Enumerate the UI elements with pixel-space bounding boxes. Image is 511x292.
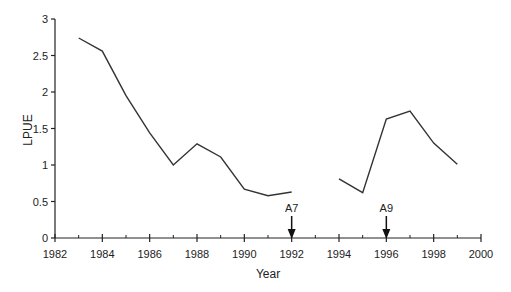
x-tick-label: 1982 <box>43 248 67 260</box>
x-tick-label: 1988 <box>185 248 209 260</box>
y-tick-label: 3 <box>42 13 48 25</box>
x-axis-title: Year <box>256 267 280 281</box>
x-tick-label: 1992 <box>279 248 303 260</box>
y-tick-label: 2.5 <box>33 50 48 62</box>
annotation-label: A9 <box>380 202 393 214</box>
x-tick-label: 1994 <box>327 248 351 260</box>
y-tick-label: 1 <box>42 159 48 171</box>
x-tick-label: 1986 <box>137 248 161 260</box>
series-line <box>79 38 292 196</box>
x-tick-label: 2000 <box>469 248 493 260</box>
y-tick-label: 0.5 <box>33 196 48 208</box>
lpue-line-chart: 00.511.522.53 19821984198619881990199219… <box>0 0 511 292</box>
data-series <box>79 38 458 196</box>
y-axis: 00.511.522.53 <box>33 13 55 244</box>
y-axis-title: LPUE <box>21 114 35 145</box>
y-tick-label: 0 <box>42 232 48 244</box>
x-tick-label: 1984 <box>90 248 114 260</box>
x-axis: 1982198419861988199019921994199619982000 <box>43 234 493 260</box>
x-tick-label: 1998 <box>421 248 445 260</box>
series-line <box>339 111 457 193</box>
x-tick-label: 1996 <box>374 248 398 260</box>
annotation-label: A7 <box>285 202 298 214</box>
y-tick-label: 2 <box>42 86 48 98</box>
x-tick-label: 1990 <box>232 248 256 260</box>
annotations: A7A9 <box>285 202 393 239</box>
